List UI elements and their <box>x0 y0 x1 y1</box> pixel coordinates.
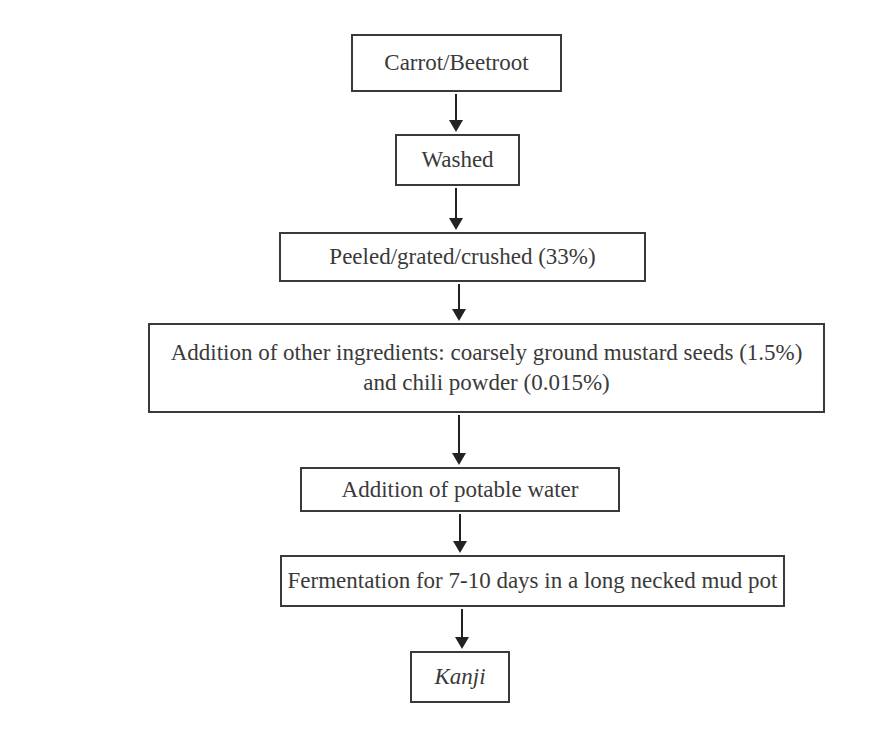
arrow-down-icon <box>448 188 464 230</box>
step-label-line2: and chili powder (0.015%) <box>363 368 610 398</box>
arrow-down-icon <box>452 514 468 553</box>
step-label: Fermentation for 7-10 days in a long nec… <box>288 566 778 596</box>
step-label: Washed <box>421 145 493 175</box>
step-label: Carrot/Beetroot <box>384 48 528 78</box>
step-label: Kanji <box>434 662 485 692</box>
step-fermentation: Fermentation for 7-10 days in a long nec… <box>280 555 785 607</box>
step-label: Addition of other ingredients: coarsely … <box>171 338 803 368</box>
arrow-down-icon <box>451 415 467 465</box>
step-kanji: Kanji <box>410 651 510 703</box>
step-peeled-grated-crushed: Peeled/grated/crushed (33%) <box>279 232 646 282</box>
arrow-down-icon <box>451 284 467 321</box>
step-addition-of-potable-water: Addition of potable water <box>300 467 620 512</box>
arrow-down-icon <box>454 609 470 649</box>
step-label: Peeled/grated/crushed (33%) <box>329 242 595 272</box>
step-carrot-beetroot: Carrot/Beetroot <box>351 34 562 92</box>
step-label: Addition of potable water <box>342 475 579 505</box>
arrow-down-icon <box>448 94 464 132</box>
step-addition-of-ingredients: Addition of other ingredients: coarsely … <box>148 323 825 413</box>
step-washed: Washed <box>395 134 520 186</box>
